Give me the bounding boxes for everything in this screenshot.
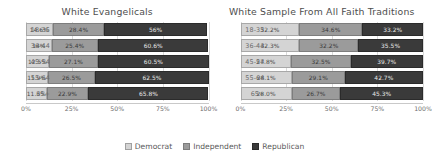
- bar-rows: 18-3532.2%34.6%33.2%36-4432.3%32.2%35.5%…: [241, 22, 424, 101]
- grid-wrapper: 18-3514.6%28.4%56%36-4414%25.4%60.6%45-5…: [26, 22, 209, 101]
- plot-area: 18-3532.2%34.6%33.2%36-4432.3%32.2%35.5%…: [215, 22, 430, 115]
- category-label: 55-64: [26, 74, 50, 82]
- bar-row: 11.3%22.9%65.8%: [26, 86, 209, 101]
- stacked-bar: 12.5%27.1%60.5%: [26, 55, 209, 68]
- bar-segment-independent: 26.5%: [48, 71, 96, 84]
- bar-segment-republican: 35.5%: [358, 39, 423, 52]
- bar-row: 12.5%27.1%60.5%: [26, 54, 209, 69]
- bar-segment-independent: 32.2%: [299, 39, 358, 52]
- bar-row: 27.8%32.5%39.7%: [241, 54, 424, 69]
- bar-segment-republican: 39.7%: [351, 55, 423, 68]
- bar-segment-independent: 32.5%: [291, 55, 350, 68]
- bar-row: 32.2%34.6%33.2%: [241, 22, 424, 37]
- bar-segment-republican: 62.5%: [95, 71, 208, 84]
- category-label: 65+: [26, 90, 50, 98]
- stacked-bar: 14.6%28.4%56%: [26, 23, 209, 36]
- gridline: [209, 22, 210, 101]
- category-label: 45-54: [26, 58, 50, 66]
- stacked-bar: 28.1%29.1%42.7%: [241, 71, 424, 84]
- category-label: 18-35: [241, 26, 265, 34]
- chart-panel: White Sample From All Faith Traditions18…: [215, 0, 430, 115]
- legend-swatch-icon: [125, 143, 132, 150]
- x-axis: 0%25%50%75%100%: [26, 103, 209, 115]
- bar-segment-republican: 65.8%: [88, 87, 208, 100]
- axis-line: [26, 103, 209, 104]
- bar-segment-independent: 22.9%: [47, 87, 89, 100]
- x-tick-label: 50%: [110, 105, 124, 112]
- category-label: 65+: [241, 90, 265, 98]
- bar-segment-independent: 26.7%: [292, 87, 341, 100]
- plot-area: 18-3514.6%28.4%56%36-4414%25.4%60.6%45-5…: [0, 22, 215, 115]
- bar-segment-independent: 28.4%: [53, 23, 105, 36]
- x-tick-label: 75%: [156, 105, 170, 112]
- legend-label: Democrat: [135, 142, 173, 151]
- panel-title: White Evangelicals: [0, 0, 215, 22]
- stacked-bar: 32.3%32.2%35.5%: [241, 39, 424, 52]
- x-tick-label: 75%: [370, 105, 384, 112]
- bar-segment-independent: 34.6%: [299, 23, 362, 36]
- x-axis: 0%25%50%75%100%: [241, 103, 424, 115]
- legend-item[interactable]: Independent: [183, 142, 241, 151]
- bar-row: 14%25.4%60.6%: [26, 38, 209, 53]
- bar-segment-independent: 27.1%: [49, 55, 98, 68]
- stacked-bar: 28.0%26.7%45.3%: [241, 87, 424, 100]
- gridline: [423, 22, 424, 101]
- chart-legend: DemocratIndependentRepublican: [0, 142, 429, 151]
- stacked-bar: 14%25.4%60.6%: [26, 39, 209, 52]
- legend-label: Independent: [193, 142, 241, 151]
- x-tick-label: 25%: [279, 105, 293, 112]
- x-tick-label: 0%: [21, 105, 31, 112]
- category-label: 36-44: [241, 42, 265, 50]
- bar-row: 28.1%29.1%42.7%: [241, 70, 424, 85]
- x-tick-label: 50%: [325, 105, 339, 112]
- category-label: 55-64: [241, 74, 265, 82]
- bar-row: 11.9%26.5%62.5%: [26, 70, 209, 85]
- x-tick-label: 0%: [236, 105, 246, 112]
- bar-segment-independent: 29.1%: [292, 71, 345, 84]
- legend-swatch-icon: [183, 143, 190, 150]
- bar-row: 32.3%32.2%35.5%: [241, 38, 424, 53]
- bar-segment-republican: 33.2%: [362, 23, 423, 36]
- bar-segment-republican: 42.7%: [345, 71, 423, 84]
- bar-rows: 18-3514.6%28.4%56%36-4414%25.4%60.6%45-5…: [26, 22, 209, 101]
- chart-panel: White Evangelicals18-3514.6%28.4%56%36-4…: [0, 0, 215, 115]
- bar-segment-independent: 25.4%: [52, 39, 98, 52]
- stacked-bar: 32.2%34.6%33.2%: [241, 23, 424, 36]
- panel-title: White Sample From All Faith Traditions: [215, 0, 430, 22]
- stacked-bar: 11.9%26.5%62.5%: [26, 71, 209, 84]
- category-label: 45-54: [241, 58, 265, 66]
- legend-item[interactable]: Republican: [252, 142, 304, 151]
- legend-label: Republican: [262, 142, 304, 151]
- bar-segment-republican: 56%: [104, 23, 206, 36]
- bar-segment-republican: 45.3%: [340, 87, 423, 100]
- grid-wrapper: 18-3532.2%34.6%33.2%36-4432.3%32.2%35.5%…: [241, 22, 424, 101]
- legend-item[interactable]: Democrat: [125, 142, 173, 151]
- axis-line: [241, 103, 424, 104]
- bar-segment-republican: 60.5%: [98, 55, 208, 68]
- bar-segment-republican: 60.6%: [98, 39, 209, 52]
- x-tick-label: 100%: [414, 105, 432, 112]
- category-label: 18-35: [26, 26, 50, 34]
- bar-row: 28.0%26.7%45.3%: [241, 86, 424, 101]
- x-tick-label: 25%: [65, 105, 79, 112]
- category-label: 36-44: [26, 42, 50, 50]
- stacked-bar: 11.3%22.9%65.8%: [26, 87, 209, 100]
- legend-swatch-icon: [252, 143, 259, 150]
- panel-container: White Evangelicals18-3514.6%28.4%56%36-4…: [0, 0, 429, 115]
- bar-row: 14.6%28.4%56%: [26, 22, 209, 37]
- stacked-bar: 27.8%32.5%39.7%: [241, 55, 424, 68]
